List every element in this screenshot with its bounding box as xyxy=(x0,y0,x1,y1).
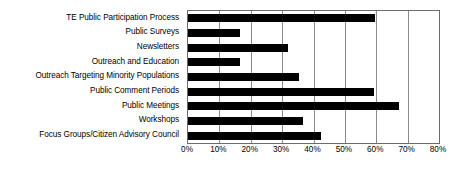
bar-row xyxy=(188,44,439,52)
bar xyxy=(188,102,399,110)
x-tick-label: 10% xyxy=(210,144,226,155)
x-tick-label: 80% xyxy=(430,144,446,155)
bar-row xyxy=(188,29,439,37)
category-label: TE Public Participation Process xyxy=(0,13,183,22)
x-tick-label: 70% xyxy=(398,144,414,155)
bar xyxy=(188,88,374,96)
value-axis: 0%10%20%30%40%50%60%70%80% xyxy=(187,144,438,158)
plot-area xyxy=(187,10,440,144)
category-label: Public Meetings xyxy=(0,101,183,110)
bar-row xyxy=(188,14,439,22)
bar xyxy=(188,44,288,52)
bar xyxy=(188,117,303,125)
bar xyxy=(188,14,375,22)
category-label: Public Comment Periods xyxy=(0,86,183,95)
bar-row xyxy=(188,88,439,96)
x-tick-label: 20% xyxy=(242,144,258,155)
bar-chart: TE Public Participation Process Public S… xyxy=(0,0,458,173)
bar-row xyxy=(188,132,439,140)
x-tick-label: 30% xyxy=(273,144,289,155)
bar xyxy=(188,73,299,81)
x-tick-label: 0% xyxy=(181,144,193,155)
category-label: Outreach Targeting Minority Populations xyxy=(0,71,183,80)
category-axis: TE Public Participation Process Public S… xyxy=(0,10,183,142)
category-label: Workshops xyxy=(0,115,183,124)
bar xyxy=(188,58,240,66)
category-label: Newsletters xyxy=(0,42,183,51)
bar-row xyxy=(188,102,439,110)
category-label: Outreach and Education xyxy=(0,57,183,66)
x-tick-label: 40% xyxy=(304,144,320,155)
x-tick-label: 50% xyxy=(336,144,352,155)
bar xyxy=(188,132,321,140)
x-tick-label: 60% xyxy=(367,144,383,155)
bar-row xyxy=(188,58,439,66)
bars-layer xyxy=(188,11,439,143)
category-label: Public Surveys xyxy=(0,27,183,36)
bar xyxy=(188,29,240,37)
bar-row xyxy=(188,117,439,125)
bar-row xyxy=(188,73,439,81)
category-label: Focus Groups/Citizen Advisory Council xyxy=(0,130,183,139)
